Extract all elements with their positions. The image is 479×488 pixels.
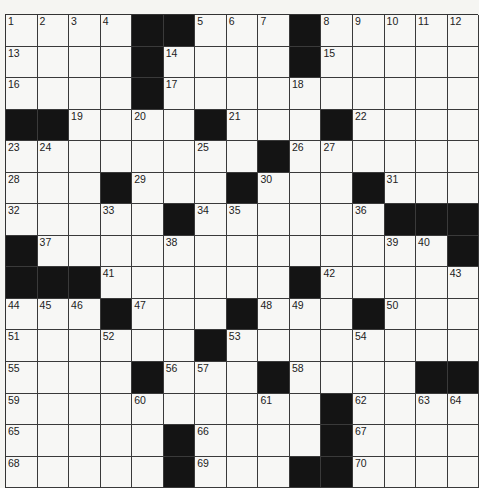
crossword-cell[interactable]: 14 [164, 47, 196, 79]
crossword-cell[interactable]: 6 [227, 15, 259, 47]
crossword-cell[interactable]: 60 [132, 394, 164, 426]
crossword-cell[interactable]: 45 [38, 299, 70, 331]
crossword-cell[interactable] [69, 236, 101, 268]
crossword-cell[interactable] [321, 362, 353, 394]
crossword-cell[interactable] [227, 78, 259, 110]
crossword-cell[interactable] [321, 204, 353, 236]
crossword-cell[interactable] [385, 110, 417, 142]
crossword-cell[interactable]: 61 [258, 394, 290, 426]
crossword-cell[interactable]: 30 [258, 173, 290, 205]
crossword-cell[interactable] [69, 394, 101, 426]
crossword-cell[interactable] [258, 110, 290, 142]
crossword-cell[interactable] [132, 267, 164, 299]
crossword-cell[interactable] [164, 141, 196, 173]
crossword-cell[interactable] [416, 110, 448, 142]
crossword-cell[interactable]: 70 [353, 457, 385, 488]
crossword-cell[interactable]: 38 [164, 236, 196, 268]
crossword-cell[interactable]: 49 [290, 299, 322, 331]
crossword-cell[interactable] [227, 47, 259, 79]
crossword-cell[interactable]: 26 [290, 141, 322, 173]
crossword-cell[interactable] [290, 236, 322, 268]
crossword-cell[interactable]: 55 [6, 362, 38, 394]
crossword-cell[interactable] [353, 47, 385, 79]
crossword-cell[interactable] [258, 267, 290, 299]
crossword-cell[interactable] [164, 394, 196, 426]
crossword-cell[interactable] [385, 267, 417, 299]
crossword-cell[interactable] [290, 173, 322, 205]
crossword-cell[interactable]: 39 [385, 236, 417, 268]
crossword-cell[interactable] [385, 47, 417, 79]
crossword-cell[interactable] [385, 141, 417, 173]
crossword-cell[interactable] [416, 141, 448, 173]
crossword-cell[interactable]: 43 [448, 267, 479, 299]
crossword-cell[interactable]: 1 [6, 15, 38, 47]
crossword-cell[interactable] [132, 204, 164, 236]
crossword-cell[interactable] [258, 425, 290, 457]
crossword-cell[interactable] [69, 47, 101, 79]
crossword-cell[interactable]: 58 [290, 362, 322, 394]
crossword-cell[interactable] [101, 236, 133, 268]
crossword-cell[interactable] [353, 267, 385, 299]
crossword-cell[interactable] [290, 425, 322, 457]
crossword-cell[interactable] [164, 267, 196, 299]
crossword-cell[interactable] [69, 362, 101, 394]
crossword-cell[interactable]: 20 [132, 110, 164, 142]
crossword-cell[interactable]: 59 [6, 394, 38, 426]
crossword-cell[interactable] [258, 47, 290, 79]
crossword-cell[interactable] [321, 299, 353, 331]
crossword-cell[interactable] [416, 173, 448, 205]
crossword-cell[interactable]: 51 [6, 330, 38, 362]
crossword-cell[interactable]: 28 [6, 173, 38, 205]
crossword-cell[interactable]: 46 [69, 299, 101, 331]
crossword-cell[interactable]: 7 [258, 15, 290, 47]
crossword-cell[interactable] [38, 330, 70, 362]
crossword-cell[interactable] [101, 78, 133, 110]
crossword-cell[interactable] [385, 425, 417, 457]
crossword-cell[interactable] [132, 330, 164, 362]
crossword-cell[interactable] [195, 47, 227, 79]
crossword-cell[interactable] [353, 236, 385, 268]
crossword-cell[interactable] [38, 457, 70, 488]
crossword-cell[interactable] [258, 457, 290, 488]
crossword-cell[interactable] [385, 78, 417, 110]
crossword-cell[interactable]: 24 [38, 141, 70, 173]
crossword-cell[interactable]: 48 [258, 299, 290, 331]
crossword-cell[interactable] [385, 330, 417, 362]
crossword-cell[interactable] [227, 141, 259, 173]
crossword-cell[interactable] [448, 299, 479, 331]
crossword-cell[interactable]: 31 [385, 173, 417, 205]
crossword-cell[interactable]: 37 [38, 236, 70, 268]
crossword-cell[interactable]: 64 [448, 394, 479, 426]
crossword-cell[interactable] [448, 425, 479, 457]
crossword-cell[interactable] [258, 78, 290, 110]
crossword-cell[interactable] [353, 362, 385, 394]
crossword-cell[interactable]: 11 [416, 15, 448, 47]
crossword-cell[interactable] [195, 78, 227, 110]
crossword-cell[interactable]: 47 [132, 299, 164, 331]
crossword-cell[interactable] [416, 457, 448, 488]
crossword-cell[interactable] [195, 299, 227, 331]
crossword-cell[interactable] [38, 204, 70, 236]
crossword-cell[interactable]: 5 [195, 15, 227, 47]
crossword-cell[interactable] [353, 78, 385, 110]
crossword-cell[interactable] [290, 110, 322, 142]
crossword-cell[interactable]: 4 [101, 15, 133, 47]
crossword-cell[interactable]: 67 [353, 425, 385, 457]
crossword-cell[interactable] [195, 267, 227, 299]
crossword-cell[interactable]: 23 [6, 141, 38, 173]
crossword-cell[interactable] [38, 173, 70, 205]
crossword-cell[interactable] [448, 110, 479, 142]
crossword-cell[interactable] [69, 425, 101, 457]
crossword-cell[interactable]: 53 [227, 330, 259, 362]
crossword-cell[interactable] [290, 204, 322, 236]
crossword-cell[interactable]: 10 [385, 15, 417, 47]
crossword-cell[interactable] [321, 330, 353, 362]
crossword-cell[interactable] [448, 141, 479, 173]
crossword-cell[interactable] [227, 394, 259, 426]
crossword-cell[interactable]: 56 [164, 362, 196, 394]
crossword-cell[interactable] [69, 173, 101, 205]
crossword-cell[interactable] [448, 47, 479, 79]
crossword-cell[interactable] [227, 267, 259, 299]
crossword-cell[interactable] [69, 330, 101, 362]
crossword-cell[interactable]: 57 [195, 362, 227, 394]
